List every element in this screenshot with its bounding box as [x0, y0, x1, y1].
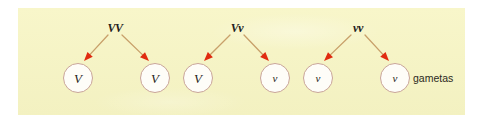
gamete-allele-label: v — [316, 73, 321, 84]
gametas-annotation-label: gametas — [413, 72, 453, 84]
arrow-shaft — [122, 35, 144, 56]
arrow-shaft — [365, 35, 384, 56]
gamete-circle: V — [183, 63, 213, 93]
gamete-allele-label: V — [74, 72, 82, 85]
gamete-circle: v — [260, 63, 290, 93]
gamete-circle: v — [380, 63, 410, 93]
parent-genotype-label: VV — [107, 21, 122, 36]
gamete-allele-label: V — [194, 72, 202, 85]
gamete-circle: V — [140, 63, 170, 93]
arrows-layer — [0, 0, 483, 115]
arrow-shaft — [329, 35, 351, 56]
gamete-allele-label: v — [273, 73, 278, 84]
arrow-shaft — [89, 35, 108, 56]
arrow-shaft — [244, 35, 264, 56]
arrow-shaft — [209, 35, 230, 56]
genetics-gamete-diagram: VVVvvvVVVvvvgametas — [0, 0, 483, 115]
parent-genotype-label: Vv — [231, 21, 244, 36]
arrow-group — [84, 35, 389, 61]
gamete-allele-label: v — [393, 73, 398, 84]
parent-genotype-label: vv — [353, 21, 363, 36]
gamete-circle: V — [63, 63, 93, 93]
gamete-allele-label: V — [151, 72, 159, 85]
gamete-circle: v — [303, 63, 333, 93]
